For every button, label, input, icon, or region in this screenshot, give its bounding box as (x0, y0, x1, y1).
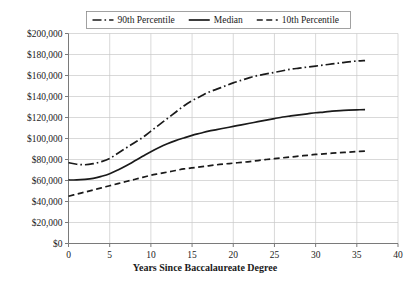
y-tick-label: $100,000 (27, 134, 63, 144)
y-tick-label: $40,000 (32, 197, 63, 207)
chart-canvas: $0$20,000$40,000$60,000$80,000$100,000$1… (0, 0, 411, 288)
series-line-10th-percentile (69, 151, 366, 196)
y-tick-label: $60,000 (32, 176, 63, 186)
chart-legend: 90th PercentileMedian10th Percentile (87, 12, 351, 29)
data-series-group (69, 61, 366, 197)
y-axis-tick-labels: $0$20,000$40,000$60,000$80,000$100,000$1… (27, 29, 63, 249)
y-tick-label: $80,000 (32, 155, 63, 165)
y-tick-label: $180,000 (27, 50, 63, 60)
legend-label-10th-percentile: 10th Percentile (282, 15, 339, 25)
series-line-median (69, 110, 366, 180)
x-axis-tick-labels: 0510152025303540 (66, 250, 403, 260)
line-chart: $0$20,000$40,000$60,000$80,000$100,000$1… (0, 0, 411, 288)
y-tick-label: $160,000 (27, 71, 63, 81)
x-tick-label: 5 (107, 250, 112, 260)
chart-axes (65, 34, 398, 248)
y-tick-label: $20,000 (32, 218, 63, 228)
x-tick-label: 40 (393, 250, 403, 260)
y-tick-label: $140,000 (27, 92, 63, 102)
legend-label-90th-percentile: 90th Percentile (118, 15, 175, 25)
x-tick-label: 35 (352, 250, 362, 260)
x-tick-label: 15 (187, 250, 197, 260)
legend-label-median: Median (214, 15, 243, 25)
y-tick-label: $200,000 (27, 29, 63, 39)
y-tick-label: $120,000 (27, 113, 63, 123)
x-tick-label: 0 (66, 250, 71, 260)
x-tick-label: 30 (311, 250, 321, 260)
x-tick-label: 10 (146, 250, 156, 260)
x-tick-label: 20 (229, 250, 239, 260)
x-axis-title: Years Since Baccalaureate Degree (133, 262, 278, 273)
y-tick-label: $0 (53, 239, 63, 249)
x-tick-label: 25 (270, 250, 280, 260)
